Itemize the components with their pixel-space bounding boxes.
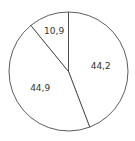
slice-label: 10,9 — [44, 26, 64, 36]
slice-label: 44,2 — [91, 61, 111, 71]
slice-label: 44,9 — [30, 83, 50, 93]
pie-chart: 44,244,910,9 — [0, 0, 135, 141]
